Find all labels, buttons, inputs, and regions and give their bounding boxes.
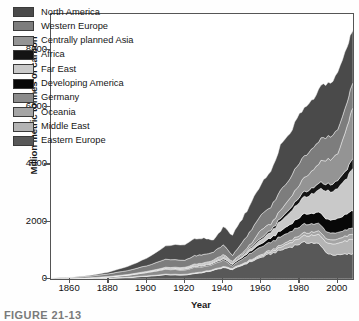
x-tick-mark [222,278,223,283]
legend-item: Germany [13,91,134,105]
legend-swatch [13,36,34,46]
x-tick-mark [107,278,108,283]
legend-item-label: Germany [41,93,79,102]
legend-swatch [13,64,34,74]
x-tick-mark [298,278,299,283]
legend-item-label: Eastern Europe [41,136,106,145]
x-tick-mark [260,278,261,283]
legend-item: Developing America [13,76,134,90]
x-tick-mark [337,278,338,283]
legend-item-label: Africa [41,50,65,59]
legend-swatch [13,7,34,17]
x-axis-title: Year [50,299,352,310]
legend-item: Eastern Europe [13,134,134,148]
legend-item: Middle East [13,119,134,133]
y-tick-label: 0 [5,273,47,283]
legend-swatch [13,21,34,31]
legend-item-label: Centrally planned Asia [41,36,134,45]
legend-swatch [13,136,34,146]
chart-legend: North AmericaWestern EuropeCentrally pla… [13,5,134,148]
legend-item: Far East [13,62,134,76]
legend-item-label: North America [41,8,100,17]
x-tick-label: 2000 [315,283,359,293]
x-tick-mark [69,278,70,283]
legend-item: North America [13,5,134,19]
legend-item-label: Middle East [41,122,90,131]
legend-item-label: Far East [41,65,76,74]
legend-item: Africa [13,48,134,62]
legend-item-label: Developing America [41,79,124,88]
legend-swatch [13,107,34,117]
legend-item: Oceania [13,105,134,119]
legend-item: Western Europe [13,19,134,33]
legend-item-label: Western Europe [41,22,108,31]
y-tick-label: 2000 [5,216,47,226]
y-tick-label: 4000 [5,158,47,168]
legend-item-label: Oceania [41,108,76,117]
x-tick-mark [184,278,185,283]
legend-swatch [13,50,34,60]
legend-swatch [13,122,34,132]
legend-item: Centrally planned Asia [13,34,134,48]
legend-swatch [13,79,34,89]
figure-caption: FIGURE 21-13 [4,309,82,321]
legend-swatch [13,93,34,103]
x-tick-mark [146,278,147,283]
figure-root: Million metric tonnes of carbon 02000400… [0,0,359,321]
